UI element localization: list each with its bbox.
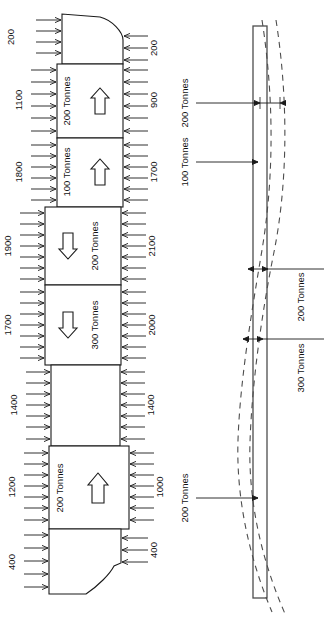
annotation-2-label: 100 Tonnes: [179, 137, 190, 186]
left-load-label-segment-2: 1800: [13, 161, 24, 182]
left-load-label-top-flare: 200: [5, 29, 16, 45]
annotation-4-label: 300 Tonnes: [295, 343, 306, 392]
segment-4-force-label: 300 Tonnes: [89, 300, 100, 349]
segment-6-force-label: 200 Tonnes: [54, 463, 65, 512]
segment-3-force-label: 200 Tonnes: [89, 221, 100, 270]
segment-4-box: [45, 285, 121, 365]
left-load-label-segment-5: 1400: [8, 394, 19, 415]
left-load-label-bottom-flare: 400: [6, 554, 17, 570]
annotation-5-label: 200 Tonnes: [179, 473, 190, 522]
annotation-3-label: 200 Tonnes: [295, 272, 306, 321]
right-load-label-segment-1: 900: [148, 92, 159, 108]
right-load-label-segment-2: 1700: [148, 161, 159, 182]
engineering-diagram-svg: 200 1100 1800 1900 1700 1400 1200 400 20…: [0, 0, 334, 626]
right-load-label-segment-5: 1400: [145, 394, 156, 415]
right-load-label-segment-4: 2000: [146, 314, 157, 335]
segment-1-force-label: 200 Tonnes: [61, 76, 72, 125]
segment-5-box: [51, 365, 120, 446]
diagram-canvas: 200 1100 1800 1900 1700 1400 1200 400 20…: [0, 0, 334, 626]
segment-3-box: [45, 207, 121, 285]
right-load-label-bottom-flare: 400: [148, 542, 159, 558]
right-load-label-segment-6: 1000: [154, 476, 165, 497]
left-load-label-segment-4: 1700: [2, 314, 13, 335]
annotation-1-label: 200 Tonnes: [179, 78, 190, 127]
right-load-label-segment-3: 2100: [146, 235, 157, 256]
left-load-label-segment-1: 1100: [13, 90, 24, 110]
left-load-label-segment-6: 1200: [6, 476, 17, 497]
segment-2-force-label: 100 Tonnes: [61, 147, 72, 196]
left-load-label-segment-3: 1900: [2, 235, 13, 256]
right-load-label-top-flare: 200: [148, 40, 159, 56]
